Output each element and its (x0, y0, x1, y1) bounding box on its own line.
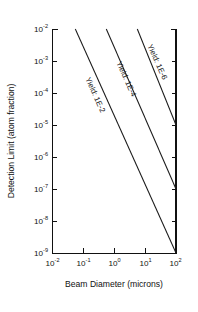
y-tick-exponent: -3 (43, 55, 48, 61)
y-tick-label: 10-8 (34, 215, 48, 226)
y-tick-label: 10-9 (34, 247, 48, 258)
y-tick-label: 10-2 (34, 23, 48, 34)
y-tick-label: 10-4 (34, 87, 48, 98)
x-tick-label: 10-2 (46, 257, 60, 268)
series-label-yield-1e-4: Yield: 1E-4 (114, 60, 138, 99)
y-tick-label: 10-3 (34, 55, 48, 66)
y-tick-exponent: -4 (43, 87, 48, 93)
y-tick-labels: 10-2 10-3 10-4 10-5 10-6 10-7 10-8 10-9 (34, 23, 48, 258)
x-tick-exponent: 2 (178, 257, 181, 263)
y-tick-exponent: -5 (43, 119, 48, 125)
series-label-yield-1e-6: Yield: 1E-6 (145, 43, 169, 81)
x-tick-label: 102 (169, 257, 181, 268)
chart-figure: 10-2 10-3 10-4 10-5 10-6 10-7 10-8 10-9 … (0, 0, 198, 312)
x-tick-exponent: 0 (117, 257, 120, 263)
x-tick-labels: 10-2 10-1 100 101 102 (46, 257, 182, 268)
series-label-yield-1e-2: Yield: 1E-2 (83, 76, 107, 114)
series-labels: Yield: 1E-2 Yield: 1E-4 Yield: 1E-6 (83, 43, 169, 114)
series-line-yield-1e-4 (106, 29, 176, 189)
y-axis-title: Detection Limit (atom fraction) (6, 84, 16, 199)
x-axis-title: Beam Diameter (microns) (65, 279, 163, 289)
y-tick-label: 10-6 (34, 151, 48, 162)
y-tick-label: 10-5 (34, 119, 48, 130)
y-tick-label: 10-7 (34, 183, 48, 194)
x-tick-exponent: -1 (86, 257, 91, 263)
y-tick-exponent: -2 (43, 23, 48, 29)
x-axis-ticks (53, 248, 177, 254)
series-line-yield-1e-6 (137, 29, 176, 125)
y-tick-exponent: -6 (43, 151, 48, 157)
x-tick-label: 100 (108, 257, 120, 268)
log-log-plot: 10-2 10-3 10-4 10-5 10-6 10-7 10-8 10-9 … (0, 0, 198, 312)
x-tick-exponent: -2 (55, 257, 60, 263)
y-tick-exponent: -9 (43, 247, 48, 253)
y-tick-exponent: -8 (43, 215, 48, 221)
y-tick-exponent: -7 (43, 183, 48, 189)
x-tick-label: 10-1 (77, 257, 91, 268)
x-tick-label: 101 (139, 257, 151, 268)
x-tick-exponent: 1 (148, 257, 151, 263)
